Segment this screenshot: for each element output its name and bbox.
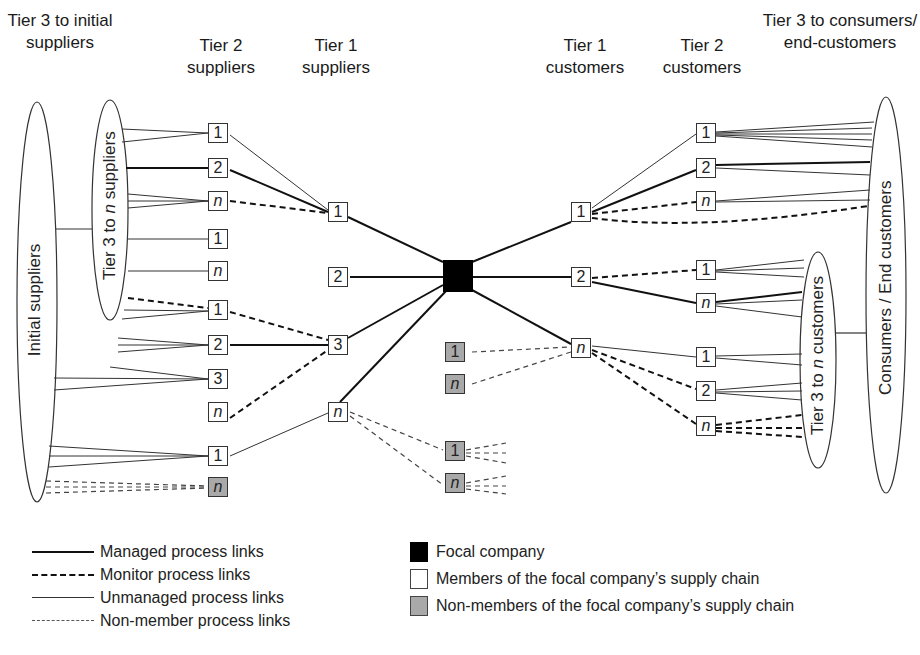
label-initial-suppliers: Initial suppliers: [25, 230, 45, 370]
tier1-supplier-node: 3: [328, 335, 348, 355]
non-member-node: n: [445, 374, 465, 394]
tier2-customer-node: n: [696, 293, 716, 313]
legend-item-members: Members of the focal company’s supply ch…: [410, 565, 794, 592]
header-tier2-suppliers: Tier 2 suppliers: [175, 35, 267, 79]
header-tier2-customers: Tier 2 customers: [652, 35, 752, 79]
legend-item-focal: Focal company: [410, 538, 794, 565]
tier2-customer-node: 1: [696, 123, 716, 143]
non-member-swatch: [410, 596, 428, 616]
member-swatch: [410, 569, 428, 589]
tier2-customer-node: 1: [696, 260, 716, 280]
tier1-supplier-node: 2: [328, 267, 348, 287]
non-member-node: 1: [445, 342, 465, 362]
non-member-node: n: [208, 477, 228, 497]
tier2-customer-node: 2: [696, 158, 716, 178]
header-tier3-initial-suppliers: Tier 3 to initial suppliers: [0, 10, 120, 54]
tier1-supplier-node: 1: [328, 202, 348, 222]
non-member-link-swatch: [32, 620, 94, 621]
header-tier1-customers: Tier 1 customers: [530, 35, 640, 79]
tier2-supplier-node: 1: [208, 446, 228, 466]
label-tier3-to-n-suppliers: Tier 3 to n suppliers: [100, 140, 120, 280]
non-member-node: n: [445, 473, 465, 493]
legend-links: Managed process links Monitor process li…: [32, 540, 290, 632]
tier2-supplier-node: n: [208, 191, 228, 211]
legend-item-unmanaged: Unmanaged process links: [32, 586, 290, 609]
focal-company-node: [443, 260, 473, 292]
legend-nodes: Focal company Members of the focal compa…: [410, 538, 794, 619]
tier2-customer-node: 2: [696, 381, 716, 401]
managed-link-swatch: [32, 551, 94, 553]
legend-item-monitor: Monitor process links: [32, 563, 290, 586]
tier2-supplier-node: 1: [208, 123, 228, 143]
non-member-node: 1: [445, 441, 465, 461]
tier2-supplier-node: n: [208, 261, 228, 281]
tier2-supplier-node: 2: [208, 158, 228, 178]
tier1-supplier-node: n: [328, 402, 348, 422]
tier2-supplier-node: 1: [208, 229, 228, 249]
tier2-customer-node: n: [696, 191, 716, 211]
tier2-supplier-node: 1: [208, 300, 228, 320]
legend-item-non-members: Non-members of the focal company’s suppl…: [410, 592, 794, 619]
tier1-customer-node: 2: [571, 267, 591, 287]
label-consumers-end-customers: Consumers / End customers: [876, 195, 896, 395]
legend-item-managed: Managed process links: [32, 540, 290, 563]
unmanaged-link-swatch: [32, 597, 94, 598]
focal-company-swatch: [410, 542, 428, 562]
tier2-customer-node: 1: [696, 347, 716, 367]
tier2-customer-node: n: [696, 416, 716, 436]
header-tier3-consumers: Tier 3 to consumers/ end-customers: [760, 10, 920, 54]
tier1-customer-node: 1: [571, 202, 591, 222]
label-tier3-to-n-customers: Tier 3 to n customers: [808, 285, 828, 435]
monitor-link-swatch: [32, 574, 94, 576]
tier2-supplier-node: 3: [208, 369, 228, 389]
header-tier1-suppliers: Tier 1 suppliers: [290, 35, 382, 79]
tier1-customer-node: n: [571, 338, 591, 358]
tier2-supplier-node: 2: [208, 335, 228, 355]
tier2-supplier-node: n: [208, 402, 228, 422]
legend-item-non-member: Non-member process links: [32, 609, 290, 632]
